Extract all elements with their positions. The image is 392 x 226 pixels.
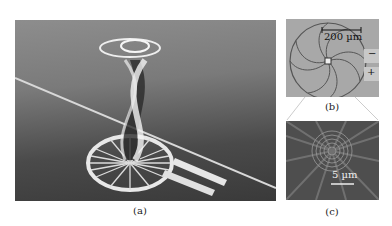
panel-c-zoomed-micrograph: 5 µm bbox=[286, 121, 379, 200]
caption-c: (c) bbox=[317, 206, 347, 217]
grating-center-micrograph bbox=[286, 121, 379, 200]
scale-bar-label-c: 5 µm bbox=[332, 169, 358, 180]
